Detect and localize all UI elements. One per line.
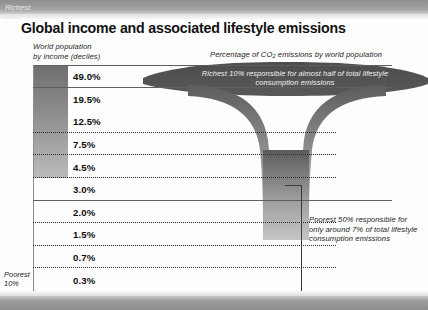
decile-value: 49.0% — [73, 71, 101, 82]
table-row: 0.3% — [33, 268, 392, 291]
y-axis-caption-line1: World population — [33, 42, 153, 52]
page-title: Global income and associated lifestyle e… — [21, 20, 411, 36]
page-top-scan-band — [0, 0, 428, 14]
chart-area: 49.0% 19.5% 12.5% 7.5% 4.5% 3.0% 2.0% 1 — [33, 65, 392, 293]
y-axis-caption-line2: by income (deciles) — [33, 52, 153, 62]
table-row: 19.5% — [33, 88, 392, 111]
table-row: 7.5% — [33, 133, 392, 156]
decile-value: 2.0% — [73, 206, 95, 217]
table-row: 3.0% — [33, 178, 392, 201]
decile-value: 3.0% — [73, 184, 95, 195]
figure-root: Global income and associated lifestyle e… — [0, 0, 428, 310]
decile-value: 0.3% — [73, 274, 95, 285]
poorest-50-bracket — [285, 185, 302, 295]
table-row: 4.5% — [33, 155, 392, 178]
decile-value: 4.5% — [73, 161, 95, 172]
label-richest-decile: Richest10% — [5, 4, 37, 21]
table-row: 0.7% — [33, 246, 392, 269]
page-top-fade — [0, 14, 428, 19]
label-poorest-decile: Poorest10% — [4, 271, 38, 288]
decile-value: 12.5% — [73, 116, 101, 127]
table-row: 49.0% — [33, 65, 392, 88]
y-axis-caption: World population by income (deciles) — [33, 42, 153, 61]
decile-value: 7.5% — [73, 139, 95, 150]
page-bottom-scan-band — [0, 296, 428, 310]
annotation-poorest: Poorest 50% responsible for only around … — [309, 215, 419, 244]
x-axis-caption-pre: Percentage of CO — [210, 50, 272, 59]
x-axis-caption: Percentage of CO2 emissions by world pop… — [210, 50, 410, 62]
decile-value: 1.5% — [73, 229, 95, 240]
decile-value: 19.5% — [73, 93, 101, 104]
x-axis-caption-post: emissions by world population — [276, 50, 382, 59]
table-row: 12.5% — [33, 110, 392, 133]
decile-value: 0.7% — [73, 252, 95, 263]
